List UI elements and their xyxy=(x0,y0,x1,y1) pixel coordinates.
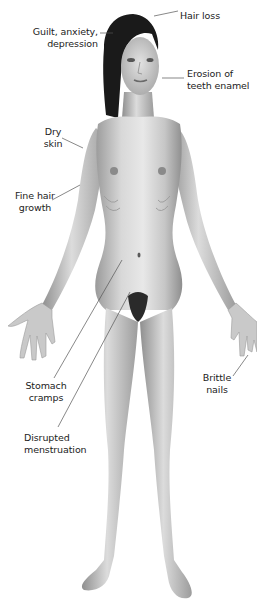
pubic-hair xyxy=(128,292,148,322)
label-guilt-anxiety-depression: Guilt, anxiety, depression xyxy=(33,26,98,50)
label-dry-skin: Dry skin xyxy=(38,126,68,150)
leader-line-hair-loss xyxy=(154,11,178,16)
torso xyxy=(95,117,182,310)
label-stomach-cramps: Stomach cramps xyxy=(22,380,70,404)
label-fine-hair-growth: Fine hair growth xyxy=(10,190,60,214)
label-hair-loss: Hair loss xyxy=(180,10,220,22)
neck xyxy=(122,92,154,118)
label-erosion-of-teeth-enamel: Erosion of teeth enamel xyxy=(187,68,249,92)
leader-line-brittle-nails xyxy=(233,355,248,376)
label-brittle-nails: Brittle nails xyxy=(200,372,234,396)
left-arm xyxy=(8,128,108,360)
face xyxy=(121,37,159,95)
right-arm xyxy=(168,128,257,356)
label-disrupted-menstruation: Disrupted menstruation xyxy=(24,432,87,456)
